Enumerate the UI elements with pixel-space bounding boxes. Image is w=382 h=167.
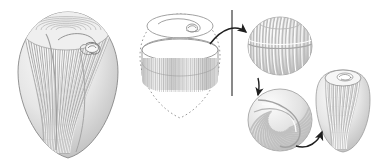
panel-b-ghost-outline-with-band bbox=[140, 14, 220, 118]
band-top-rim bbox=[142, 39, 218, 61]
apical-oral-spiral-small bbox=[337, 73, 353, 81]
panel-e-reformed-cell-stage bbox=[316, 70, 370, 152]
arrow-band-to-barrel bbox=[210, 28, 246, 44]
panel-a-whole-cell-ciliate bbox=[18, 10, 118, 158]
arrow-barrel-to-spiral bbox=[258, 78, 259, 95]
morphogenesis-figure bbox=[0, 0, 382, 167]
band-stripes bbox=[142, 54, 218, 92]
panel-c-rounded-barrel-stage bbox=[248, 15, 312, 76]
figure-canvas bbox=[0, 0, 382, 167]
apical-ellipse bbox=[147, 14, 213, 38]
panel-d-spiralled-round-stage bbox=[248, 89, 314, 153]
